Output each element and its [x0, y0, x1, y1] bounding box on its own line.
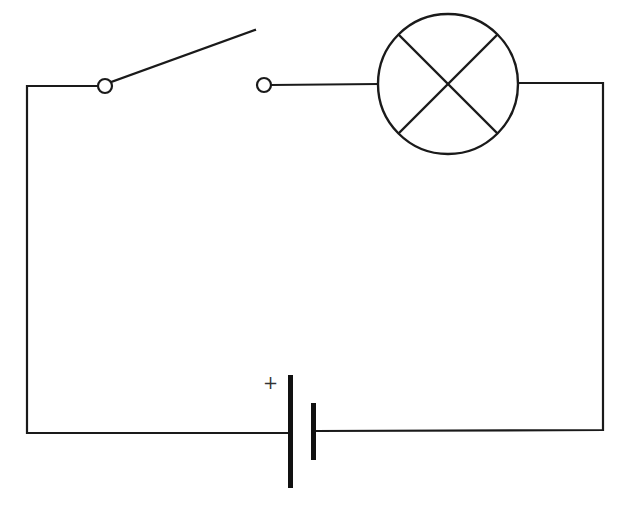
switch [98, 30, 271, 93]
switch-terminal-left [98, 79, 112, 93]
switch-terminal-right [257, 78, 271, 92]
wire-left [27, 86, 288, 433]
battery-positive-plate [288, 375, 293, 488]
switch-lever [111, 30, 255, 82]
wire-switch-to-lamp [271, 84, 378, 85]
lamp [378, 14, 518, 154]
circuit-diagram: + [0, 0, 630, 508]
circuit-wires [27, 83, 603, 433]
battery: + [263, 372, 316, 488]
battery-positive-label: + [263, 372, 278, 393]
battery-negative-plate [311, 403, 316, 460]
